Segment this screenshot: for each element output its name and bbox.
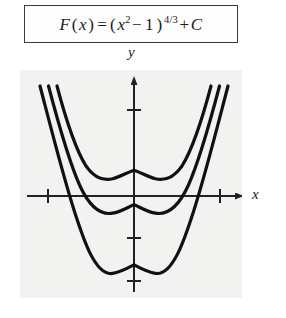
y-axis-label: y (128, 44, 135, 61)
formula-minus-sign: − (131, 15, 144, 34)
formula-box: F(x)=(x2−1)4/3+C (24, 5, 238, 43)
formula-group-close: ) (155, 15, 164, 34)
graph-panel (20, 70, 242, 298)
formula-function-name: F (60, 15, 71, 34)
formula-one: 1 (143, 15, 155, 34)
x-axis-label: x (252, 186, 259, 203)
formula-outer-exponent: 4/3 (164, 14, 178, 25)
formula-paren-close: ) (87, 15, 96, 34)
formula-plus-sign: + (178, 15, 191, 34)
formula-base-variable: x (117, 15, 125, 34)
function-plot (20, 70, 242, 298)
formula-argument: x (79, 15, 87, 34)
formula-constant: C (191, 15, 203, 34)
formula-equals-sign: = (96, 15, 109, 34)
formula-paren-open: ( (70, 15, 79, 34)
formula-expression: F(x)=(x2−1)4/3+C (60, 16, 203, 33)
formula-base-exponent: 2 (125, 14, 130, 25)
